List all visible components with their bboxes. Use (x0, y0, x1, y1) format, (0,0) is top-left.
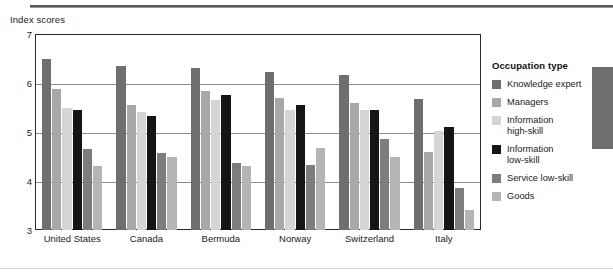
x-tick-label: United States (44, 233, 101, 244)
header-rule-shadow (30, 7, 613, 8)
gridline (36, 182, 480, 183)
legend-item-label: Information low-skill (507, 144, 554, 166)
x-tick-label: Bermuda (202, 233, 241, 244)
legend-item-label: Managers (507, 97, 548, 108)
legend-item[interactable]: Goods (492, 191, 604, 202)
legend-items: Knowledge expertManagersInformation high… (492, 79, 604, 202)
legend-swatch-icon (492, 192, 501, 201)
legend-item[interactable]: Service low-skill (492, 173, 604, 184)
legend-swatch-icon (492, 174, 501, 183)
right-edge-tab[interactable] (592, 67, 613, 149)
y-tick-label: 4 (6, 176, 32, 187)
legend-item[interactable]: Knowledge expert (492, 79, 604, 90)
chart-page: Index scores 34567 United StatesCanadaBe… (0, 0, 613, 276)
legend-item-label: Service low-skill (507, 173, 573, 184)
y-axis-title: Index scores (10, 14, 65, 25)
y-tick-label: 5 (6, 127, 32, 138)
y-tick-label: 3 (6, 225, 32, 236)
x-axis-tick-labels: United StatesCanadaBermudaNorwaySwitzerl… (35, 233, 481, 251)
legend-item-label: Goods (507, 191, 534, 202)
legend-swatch-icon (492, 145, 501, 154)
plot-area (35, 34, 481, 230)
x-tick-label: Norway (279, 233, 311, 244)
chart-legend: Occupation type Knowledge expertManagers… (492, 60, 604, 209)
legend-item-label: Information high-skill (507, 115, 554, 137)
x-tick-label: Italy (435, 233, 452, 244)
gridline (36, 84, 480, 85)
legend-item[interactable]: Managers (492, 97, 604, 108)
gridline (36, 133, 480, 134)
y-axis-tick-labels: 34567 (2, 34, 32, 230)
legend-title: Occupation type (492, 60, 604, 71)
y-tick-label: 6 (6, 78, 32, 89)
legend-swatch-icon (492, 116, 501, 125)
x-tick-label: Switzerland (345, 233, 394, 244)
legend-swatch-icon (492, 80, 501, 89)
x-tick-label: Canada (130, 233, 163, 244)
footer-rule (0, 268, 613, 269)
y-tick-label: 7 (6, 29, 32, 40)
legend-swatch-icon (492, 98, 501, 107)
legend-item[interactable]: Information high-skill (492, 115, 604, 137)
legend-item[interactable]: Information low-skill (492, 144, 604, 166)
legend-item-label: Knowledge expert (507, 79, 581, 90)
